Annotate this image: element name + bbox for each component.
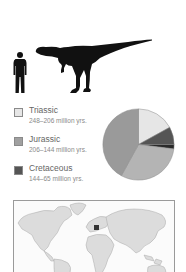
human-silhouette-icon [14,52,27,93]
period-name: Jurassic [29,134,60,144]
period-range: 144–65 million yrs. [29,175,83,182]
legend-item-jurassic: Jurassic 206–144 million yrs. [12,134,102,162]
highlight-marker [94,225,99,230]
swatch-jurassic-icon [14,137,23,146]
swatch-triassic-icon [14,108,23,117]
world-map [13,200,175,272]
legend-item-triassic: Triassic 248–206 million yrs. [12,105,102,133]
size-comparison [0,0,186,100]
period-name: Triassic [29,105,58,115]
dinosaur-silhouette-icon [36,40,152,94]
period-name: Cretaceous [29,163,72,173]
swatch-cretaceous-icon [14,166,23,175]
legend: Triassic 248–206 million yrs. Jurassic 2… [12,105,102,192]
period-range: 206–144 million yrs. [29,146,87,153]
pie-chart [100,106,177,183]
world-map-icon [14,201,175,272]
legend-item-cretaceous: Cretaceous 144–65 million yrs. [12,163,102,191]
period-range: 248–206 million yrs. [29,117,87,124]
